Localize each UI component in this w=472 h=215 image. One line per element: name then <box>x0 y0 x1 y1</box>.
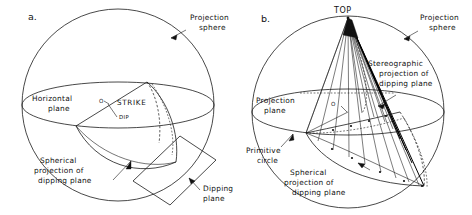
panel-a-horizontal-plane-label-line2: plane <box>48 104 70 113</box>
panel-b-stereographic-label-line1: Stereographic <box>368 59 423 68</box>
leader-spherical-projection-a <box>113 161 131 180</box>
hidden-arc-dashed2-a <box>152 84 173 155</box>
panel-a-origin-label: O <box>99 98 104 104</box>
panel-a-spherical-projection-label-line1: Spherical <box>40 156 77 165</box>
origin-tick-b <box>341 106 347 112</box>
leader-arrow-projection-sphere-a <box>171 35 177 40</box>
panel-b-stereographic-label-line2: projection of <box>379 69 429 78</box>
leader-arrow-spherical-projection-b <box>358 163 365 168</box>
panel-a-strike-label: STRIKE <box>117 98 147 107</box>
panel-b: b. TOP Projection sphere Projection plan… <box>246 6 459 208</box>
panel-b-stereographic-label-line3: dipping plane <box>379 79 433 88</box>
panel-a-dipping-plane-label-line2: plane <box>203 194 225 203</box>
panel-a: a. Projection sphere Horizontal plane O … <box>22 9 233 205</box>
panel-a-dipping-plane-label-line1: Dipping <box>203 184 233 193</box>
panel-b-primitive-circle-label-line1: Primitive <box>246 146 281 155</box>
dip-tick-a <box>108 104 117 117</box>
panel-a-dip-label: DIP <box>119 114 130 120</box>
figure-svg: a. Projection sphere Horizontal plane O … <box>0 0 472 215</box>
panel-a-horizontal-plane-label-line1: Horizontal <box>32 94 72 103</box>
panel-a-spherical-projection-label-line3: dipping plane <box>38 176 92 185</box>
panel-b-spherical-projection-label-line2: projection of <box>284 178 334 187</box>
panel-b-spherical-projection-label-line3: dipping plane <box>292 188 346 197</box>
origin-tick-a <box>104 101 109 104</box>
panel-b-id: b. <box>261 13 270 24</box>
panel-b-projection-plane-label-line2: plane <box>264 106 286 115</box>
figure-container: a. Projection sphere Horizontal plane O … <box>0 0 472 215</box>
panel-b-projection-plane-label-line1: Projection <box>256 96 295 105</box>
panel-b-spherical-projection-label-line1: Spherical <box>290 168 327 177</box>
dipping-plane-edge-a <box>76 126 176 164</box>
leader-arrow-dipping-plane-a <box>189 178 195 184</box>
panel-a-id: a. <box>28 11 37 22</box>
hidden-arc-dashed-a <box>147 82 160 143</box>
panel-a-projection-sphere-label-line2: sphere <box>199 23 226 32</box>
ray-fan-b <box>306 18 424 186</box>
apex-wedge-b <box>343 18 358 38</box>
panel-a-spherical-projection-label-line2: projection of <box>34 166 84 175</box>
leader-arrow-spherical-projection-a <box>126 161 131 169</box>
panel-b-primitive-circle-label-line2: circle <box>257 156 278 165</box>
panel-b-projection-sphere-label-line1: Projection <box>420 13 459 22</box>
arc-tick-marks-b <box>331 115 423 187</box>
spherical-projection-arc-a <box>76 126 176 169</box>
panel-a-projection-sphere-label-line1: Projection <box>190 13 229 22</box>
panel-b-origin-label: O <box>331 101 336 107</box>
panel-b-projection-sphere-label-line2: sphere <box>429 23 456 32</box>
panel-b-top-label: TOP <box>333 6 352 15</box>
spherical-projection-arc-back-a <box>147 82 177 162</box>
